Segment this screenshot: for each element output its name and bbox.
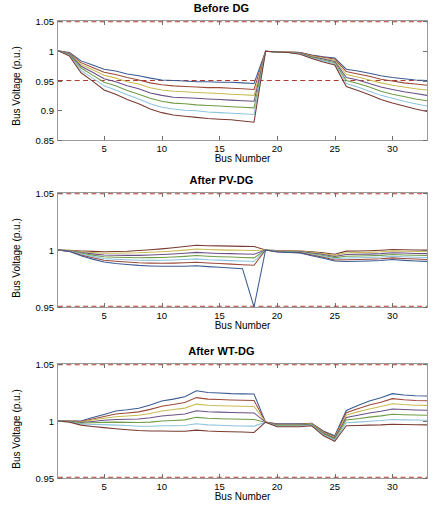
series-line	[58, 51, 427, 84]
y-axis-tick-mark	[58, 21, 62, 22]
x-axis-tick-mark	[219, 364, 220, 368]
x-axis-tick-mark	[162, 303, 163, 307]
x-axis-tick-mark	[277, 474, 278, 478]
voltage-profile-figure: Before DG Bus Voltage (p.u.) Bus Number …	[0, 0, 443, 514]
x-axis-tick-label: 15	[214, 143, 225, 154]
panel-3-curves	[58, 364, 427, 478]
x-axis-tick-mark	[392, 303, 393, 307]
x-axis-tick-mark	[162, 21, 163, 25]
y-axis-tick-label: 0.95	[36, 302, 55, 313]
x-axis-tick-mark	[162, 364, 163, 368]
x-axis-tick-label: 30	[387, 143, 398, 154]
y-axis-tick-mark	[423, 110, 427, 111]
y-axis-tick-label: 0.85	[36, 135, 55, 146]
x-axis-tick-mark	[104, 21, 105, 25]
x-axis-tick-label: 20	[272, 310, 283, 321]
series-line	[58, 51, 427, 122]
x-axis-tick-label: 20	[272, 481, 283, 492]
y-axis-tick-mark	[58, 81, 62, 82]
x-axis-tick-mark	[335, 21, 336, 25]
x-axis-tick-mark	[162, 136, 163, 140]
panel-3-plot-area: 0.9511.0551015202530	[57, 363, 428, 479]
y-axis-tick-mark	[423, 81, 427, 82]
y-axis-tick-mark	[58, 51, 62, 52]
y-axis-tick-label: 1.05	[36, 16, 55, 27]
y-axis-tick-label: 0.95	[36, 473, 55, 484]
panel-1-curves	[58, 21, 427, 140]
series-line	[58, 51, 427, 90]
y-axis-tick-mark	[58, 193, 62, 194]
x-axis-tick-mark	[392, 136, 393, 140]
y-axis-tick-mark	[423, 307, 427, 308]
x-axis-tick-mark	[335, 303, 336, 307]
y-axis-tick-label: 1	[49, 416, 54, 427]
x-axis-tick-mark	[335, 474, 336, 478]
x-axis-tick-mark	[104, 193, 105, 197]
x-axis-tick-label: 30	[387, 481, 398, 492]
x-axis-tick-label: 10	[156, 143, 167, 154]
y-axis-tick-label: 0.9	[41, 105, 54, 116]
x-axis-tick-mark	[104, 136, 105, 140]
x-axis-tick-label: 20	[272, 143, 283, 154]
x-axis-tick-mark	[162, 193, 163, 197]
panel-1-title: Before DG	[0, 2, 443, 14]
x-axis-tick-mark	[104, 364, 105, 368]
x-axis-tick-label: 5	[101, 143, 106, 154]
panel-3-ylabel: Bus Voltage (p.u.)	[11, 369, 22, 489]
x-axis-tick-mark	[277, 364, 278, 368]
x-axis-tick-label: 25	[329, 143, 340, 154]
y-axis-tick-mark	[58, 364, 62, 365]
y-axis-tick-mark	[423, 478, 427, 479]
x-axis-tick-mark	[219, 21, 220, 25]
y-axis-tick-mark	[423, 140, 427, 141]
series-line	[58, 51, 427, 108]
y-axis-tick-label: 0.95	[36, 75, 55, 86]
x-axis-tick-mark	[392, 193, 393, 197]
y-axis-tick-label: 1	[49, 45, 54, 56]
y-axis-tick-mark	[58, 250, 62, 251]
panel-2-xlabel: Bus Number	[57, 320, 428, 331]
x-axis-tick-mark	[277, 21, 278, 25]
x-axis-tick-mark	[392, 474, 393, 478]
x-axis-tick-mark	[335, 136, 336, 140]
y-axis-tick-mark	[423, 364, 427, 365]
series-line	[58, 414, 427, 439]
x-axis-tick-mark	[219, 193, 220, 197]
x-axis-tick-label: 15	[214, 310, 225, 321]
panel-1-ylabel: Bus Voltage (p.u.)	[11, 26, 22, 146]
x-axis-tick-mark	[392, 21, 393, 25]
series-line	[58, 250, 427, 307]
panel-2-plot-area: 0.9511.0551015202530	[57, 192, 428, 308]
x-axis-tick-label: 25	[329, 481, 340, 492]
y-axis-tick-mark	[423, 250, 427, 251]
y-axis-tick-mark	[423, 21, 427, 22]
y-axis-tick-label: 1.05	[36, 359, 55, 370]
x-axis-tick-mark	[162, 474, 163, 478]
x-axis-tick-mark	[335, 364, 336, 368]
panel-1-plot-area: 0.850.90.9511.0551015202530	[57, 20, 428, 141]
x-axis-tick-mark	[277, 193, 278, 197]
x-axis-tick-mark	[277, 303, 278, 307]
x-axis-tick-label: 5	[101, 481, 106, 492]
x-axis-tick-label: 25	[329, 310, 340, 321]
x-axis-tick-mark	[219, 303, 220, 307]
panel-after-wt-dg: After WT-DG Bus Voltage (p.u.) Bus Numbe…	[0, 343, 443, 514]
y-axis-tick-mark	[58, 110, 62, 111]
series-line	[58, 421, 427, 441]
panel-3-title: After WT-DG	[0, 345, 443, 357]
panel-2-ylabel: Bus Voltage (p.u.)	[11, 198, 22, 318]
y-axis-tick-label: 1.05	[36, 188, 55, 199]
x-axis-tick-label: 10	[156, 481, 167, 492]
y-axis-tick-mark	[423, 51, 427, 52]
y-axis-tick-mark	[423, 193, 427, 194]
y-axis-tick-mark	[58, 421, 62, 422]
x-axis-tick-mark	[219, 136, 220, 140]
x-axis-tick-label: 5	[101, 310, 106, 321]
series-line	[58, 391, 427, 436]
panel-after-pv-dg: After PV-DG Bus Voltage (p.u.) Bus Numbe…	[0, 172, 443, 343]
y-axis-tick-mark	[58, 478, 62, 479]
x-axis-tick-mark	[335, 193, 336, 197]
series-line	[58, 409, 427, 438]
x-axis-tick-label: 30	[387, 310, 398, 321]
y-axis-tick-mark	[423, 421, 427, 422]
